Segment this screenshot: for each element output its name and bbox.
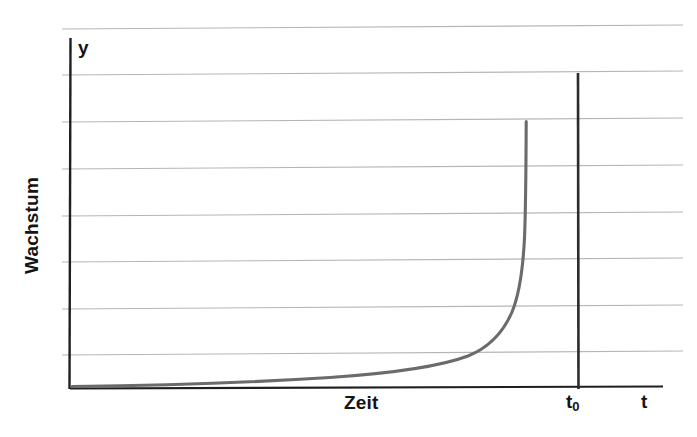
t0-annotation-label: t0 xyxy=(566,392,580,411)
gridline-7 xyxy=(62,305,683,309)
gridline-3 xyxy=(62,118,683,122)
gridline-2 xyxy=(62,71,683,75)
chart-canvas xyxy=(0,0,697,437)
t0-subscript: 0 xyxy=(572,399,579,414)
growth-chart: y Wachstum Zeit t0 t xyxy=(0,0,697,437)
gridline-8 xyxy=(62,351,683,355)
x-axis-line xyxy=(70,387,663,389)
growth-curve xyxy=(72,122,526,387)
gridline-6 xyxy=(62,258,683,262)
gridline-4 xyxy=(62,165,683,169)
gridline-1 xyxy=(62,25,683,29)
asymptote-line xyxy=(578,73,579,389)
y-axis-title: Wachstum xyxy=(22,177,41,274)
y-axis-line xyxy=(70,38,71,389)
gridlines xyxy=(62,25,683,355)
x-axis-title: Zeit xyxy=(344,393,379,412)
x-axis-symbol: t xyxy=(641,392,647,411)
gridline-5 xyxy=(62,212,683,216)
y-axis-symbol: y xyxy=(78,38,89,57)
